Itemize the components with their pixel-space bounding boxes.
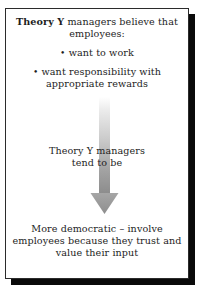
bullet-marker-icon: • — [33, 67, 38, 77]
theory-y-diagram: Theory Y managers believe that employees… — [0, 0, 206, 291]
conclusion-text: More democratic – involve employees beca… — [12, 223, 182, 260]
heading-bold-part: Theory Y — [16, 16, 64, 27]
diagram-panel: Theory Y managers believe that employees… — [5, 8, 189, 279]
arrow-label: Theory Y managers tend to be — [12, 145, 182, 169]
bullet-item: • want responsibility with appropriate r… — [12, 66, 182, 90]
diagram-heading: Theory Y managers believe that employees… — [12, 16, 182, 39]
heading-rest: managers believe that employees: — [64, 16, 178, 39]
bullet-text: want to work — [69, 47, 134, 58]
bullet-item: • want to work — [12, 47, 182, 59]
arrow-label-line-2: tend to be — [12, 157, 182, 169]
arrow-label-line-1: Theory Y managers — [12, 145, 182, 157]
bullet-marker-icon: • — [60, 48, 65, 58]
bullet-text: want responsibility with appropriate rew… — [41, 66, 161, 89]
